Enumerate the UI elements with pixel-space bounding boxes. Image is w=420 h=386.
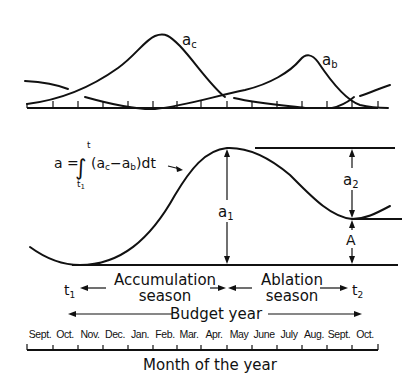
ablation-rate-next-rise-2 — [360, 85, 390, 96]
budget-year-label: Budget year — [170, 305, 263, 323]
net-balance-A-label: A — [346, 232, 356, 248]
month-label: July — [280, 328, 298, 340]
month-label: May — [230, 328, 250, 340]
integral-lower-limit: t1 — [77, 179, 85, 191]
accumulation-season-label-2: season — [139, 287, 192, 305]
accumulation-rate-tail — [234, 98, 305, 108]
integral-upper-limit: t — [87, 140, 91, 150]
glacier-mass-balance-diagram: ac ab a = ∫ t t1 (ac−ab)dt a1 a2 — [0, 0, 420, 386]
a2-label: a2 — [343, 171, 359, 190]
t1-label: t1 — [64, 282, 75, 300]
a1-label: a1 — [218, 203, 234, 222]
month-label: Sept. — [29, 328, 52, 340]
month-label: Apr. — [205, 328, 222, 340]
middle-panel: a = ∫ t t1 (ac−ab)dt a1 a2 A — [30, 140, 402, 265]
formula-pointer-arrowhead — [176, 166, 183, 172]
ablation-season-label-2: season — [266, 287, 319, 305]
month-label: Oct. — [56, 328, 74, 340]
ablation-curve-label: ab — [322, 51, 338, 70]
month-axis-title: Month of the year — [143, 356, 278, 374]
top-axis-ticks — [27, 101, 378, 108]
month-label: June — [253, 328, 275, 340]
top-panel: ac ab — [25, 31, 390, 109]
month-labels: Sept. Oct. Nov. Dec. Jan. Feb. Mar. Apr.… — [29, 328, 374, 340]
seasons-panel: t1 Accumulation season Ablation season t… — [64, 271, 363, 323]
month-label: Sept. — [328, 328, 351, 340]
month-label: Mar. — [180, 328, 199, 340]
month-label: Dec. — [105, 328, 125, 340]
month-label: Oct. — [356, 328, 374, 340]
month-label: Nov. — [80, 328, 99, 340]
accumulation-curve-label: ac — [182, 31, 197, 50]
month-label: Aug. — [304, 328, 324, 340]
month-label: Feb. — [155, 328, 174, 340]
integral-sign: ∫ — [75, 155, 86, 180]
integrand: (ac−ab)dt — [91, 155, 156, 172]
month-axis: Sept. Oct. Nov. Dec. Jan. Feb. Mar. Apr.… — [27, 328, 378, 374]
ablation-rate-curve — [85, 55, 388, 109]
ablation-rate-next-rise — [332, 97, 354, 108]
accumulation-rate-prev-tail — [25, 81, 68, 89]
t2-label: t2 — [352, 282, 363, 300]
month-label: Jan. — [131, 328, 149, 340]
